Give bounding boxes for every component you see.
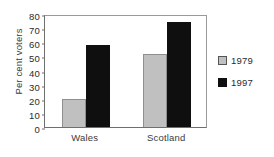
legend-swatch-1997 bbox=[218, 78, 227, 87]
y-axis-tick-label: 20 bbox=[29, 95, 42, 106]
x-axis-label-scotland: Scotland bbox=[126, 132, 206, 143]
y-axis-tick-label: 40 bbox=[29, 67, 42, 78]
legend-item-1979: 1979 bbox=[218, 55, 253, 66]
legend-label-1979: 1979 bbox=[231, 55, 253, 66]
bar-scotland-1979 bbox=[143, 54, 167, 127]
y-axis-tick: 20 bbox=[29, 95, 45, 106]
bar-group bbox=[141, 16, 193, 127]
y-axis-tick: 30 bbox=[29, 81, 45, 92]
y-axis-tick: 40 bbox=[29, 67, 45, 78]
chart-legend: 19791997 bbox=[218, 55, 253, 88]
bar-group bbox=[60, 16, 112, 127]
legend-swatch-1979 bbox=[218, 56, 227, 65]
y-axis-tick: 60 bbox=[29, 39, 45, 50]
y-axis-tick: 0 bbox=[35, 124, 45, 135]
y-axis-tick: 70 bbox=[29, 25, 45, 36]
y-axis-tick: 50 bbox=[29, 53, 45, 64]
y-axis-tick-label: 30 bbox=[29, 81, 42, 92]
y-axis-tick-label: 70 bbox=[29, 25, 42, 36]
legend-item-1997: 1997 bbox=[218, 77, 253, 88]
bar-scotland-1997 bbox=[167, 22, 191, 127]
y-axis-tick-label: 50 bbox=[29, 53, 42, 64]
y-axis-tick-mark bbox=[42, 129, 45, 130]
y-axis-tick-label: 60 bbox=[29, 39, 42, 50]
plot-area: 80706050403020100 bbox=[44, 15, 207, 128]
y-axis-tick-label: 10 bbox=[29, 109, 42, 120]
y-axis-tick-label: 80 bbox=[29, 11, 42, 22]
legend-label-1997: 1997 bbox=[231, 77, 253, 88]
y-axis-tick: 10 bbox=[29, 109, 45, 120]
bar-chart: Per cent voters 80706050403020100 WalesS… bbox=[0, 0, 274, 157]
y-axis-title: Per cent voters bbox=[13, 7, 24, 117]
bar-wales-1979 bbox=[62, 99, 86, 127]
y-axis-tick-label: 0 bbox=[35, 124, 42, 135]
bar-wales-1997 bbox=[86, 45, 110, 127]
y-axis-tick: 80 bbox=[29, 11, 45, 22]
x-axis-label-wales: Wales bbox=[45, 132, 125, 143]
bars-layer bbox=[45, 16, 206, 127]
